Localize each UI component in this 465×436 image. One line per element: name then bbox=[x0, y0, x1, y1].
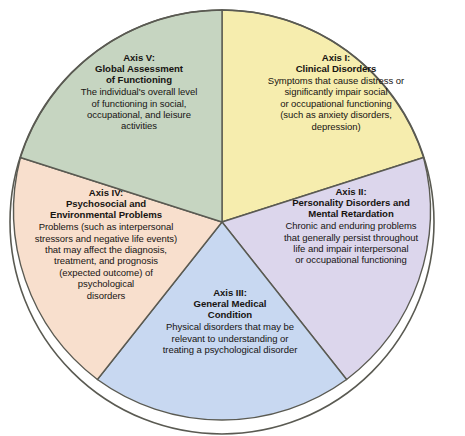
pie-wheel-graphic bbox=[0, 0, 465, 436]
multiaxial-wheel-diagram: Axis I:Clinical Disorders Symptoms that … bbox=[0, 0, 465, 436]
pie-slices bbox=[14, 10, 431, 420]
